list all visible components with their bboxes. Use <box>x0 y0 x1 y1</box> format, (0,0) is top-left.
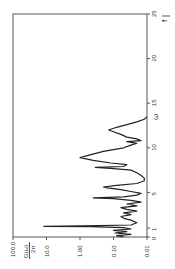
axis-arrow-label: f <box>161 19 168 22</box>
omega-tick-label: 0 <box>151 236 157 240</box>
log-tick-label: 0.01 <box>144 245 150 257</box>
spectrum-chart: 100.010.01.000.100.01 01510152025 G(ω) 2… <box>0 0 175 269</box>
spectrum-curve <box>44 117 147 237</box>
ylabel-fraction: G(ω) 2π <box>23 242 36 259</box>
omega-tick-label: 5 <box>151 191 157 195</box>
omega-tick-label: 10 <box>151 143 157 150</box>
log-tick-label: 0.10 <box>111 245 117 257</box>
omega-tick-label: 20 <box>151 54 157 61</box>
omega-tick-label: 1 <box>151 227 157 231</box>
omega-axis-ticks: 01510152025 <box>147 10 157 240</box>
omega-tick-label: 25 <box>151 10 157 17</box>
ylabel-denominator: 2π <box>30 246 36 253</box>
log-tick-label: 10.0 <box>44 245 50 257</box>
omega-axis-label: ω <box>151 114 160 120</box>
log-tick-label: 100.0 <box>10 241 16 257</box>
ylabel-numerator: G(ω) <box>23 245 29 258</box>
omega-tick-label: 15 <box>151 99 157 106</box>
log-tick-label: 1.00 <box>77 245 83 257</box>
axis-arrow: f <box>161 16 170 22</box>
